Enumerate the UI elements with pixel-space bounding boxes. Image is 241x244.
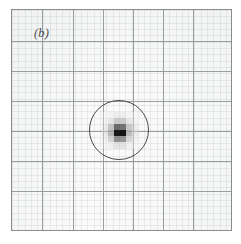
panel-label: (b) [34,26,49,41]
gridline-horizontal [12,161,231,162]
gridline-horizontal [12,71,231,72]
gridline-vertical [193,10,194,230]
gridline-horizontal [12,41,231,42]
figure-panel: (b) [0,0,241,244]
gridline-vertical [73,10,74,230]
gridline-vertical [163,10,164,230]
plot-frame [11,9,232,231]
gridline-vertical [42,10,43,230]
aperture-circle [89,100,149,160]
gridline-horizontal [12,191,231,192]
